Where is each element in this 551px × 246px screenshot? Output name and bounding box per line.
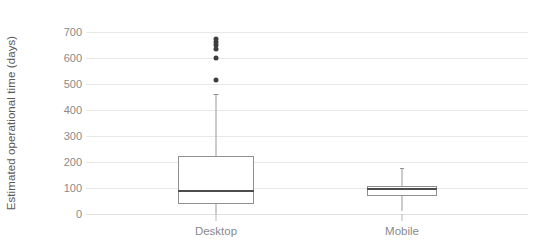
gridline-700	[86, 32, 528, 33]
outlier-point	[214, 77, 219, 82]
gridline-100	[86, 188, 528, 189]
gridline-500	[86, 84, 528, 85]
y-tick-label-700: 700	[48, 26, 82, 38]
boxplot-chart: Estimated operational time (days) 010020…	[0, 0, 551, 246]
y-tick-label-100: 100	[48, 182, 82, 194]
y-tick-label-200: 200	[48, 156, 82, 168]
y-axis-title: Estimated operational time (days)	[0, 0, 22, 246]
upper-whisker-cap	[400, 168, 404, 169]
y-tick-label-500: 500	[48, 78, 82, 90]
gridline-0	[86, 214, 528, 215]
x-tick-label-desktop: Desktop	[195, 225, 237, 237]
upper-whisker-cap	[214, 94, 219, 95]
y-tick-label-400: 400	[48, 104, 82, 116]
boxplot-mobile[interactable]	[367, 0, 437, 246]
box-iqr	[178, 156, 254, 204]
y-tick-label-600: 600	[48, 52, 82, 64]
x-tick-mark-mobile	[402, 214, 403, 221]
gridline-600	[86, 58, 528, 59]
lower-whisker	[402, 196, 403, 211]
gridline-200	[86, 162, 528, 163]
median-line	[178, 190, 254, 192]
gridline-400	[86, 110, 528, 111]
y-tick-label-0: 0	[48, 208, 82, 220]
outlier-point	[214, 36, 219, 41]
upper-whisker	[216, 94, 217, 156]
median-line	[367, 188, 437, 190]
x-tick-label-mobile: Mobile	[385, 225, 419, 237]
outlier-point	[214, 55, 219, 60]
lower-whisker	[216, 204, 217, 214]
gridline-300	[86, 136, 528, 137]
x-tick-mark-desktop	[216, 214, 217, 221]
y-tick-label-300: 300	[48, 130, 82, 142]
y-axis-tick-labels: 0100200300400500600700	[44, 0, 82, 246]
boxplot-desktop[interactable]	[178, 0, 254, 246]
plot-area: DesktopMobile	[86, 0, 528, 246]
upper-whisker	[402, 168, 403, 186]
